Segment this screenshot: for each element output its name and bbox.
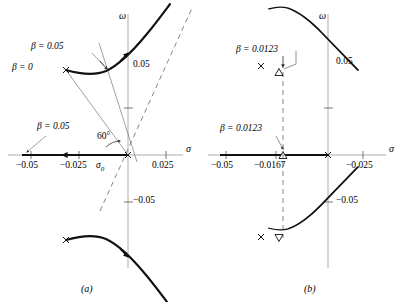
leader-beta-upper-b: [284, 51, 296, 69]
sigma-axis-label-b: σ: [389, 143, 394, 154]
omega-axis-label-b: ω: [319, 10, 326, 21]
omega-lower-value-a: −0.05: [133, 196, 155, 206]
xtick-label-b-2: −0.0167: [254, 161, 285, 171]
xtick-label-b-3: −0.025: [346, 161, 373, 171]
omega-upper-value-b: 0.05: [336, 57, 353, 67]
panel-a: β = 0.05 β = 0 β = 0.05 0.05 −0.05 60° −…: [0, 0, 200, 302]
upper-branch-a: [66, 4, 170, 74]
caption-b: (b): [304, 283, 316, 294]
xtick-label-a-2: −0.025: [60, 161, 87, 171]
panel-a-plot: [0, 0, 200, 302]
omega-upper-value-a: 0.05: [133, 60, 150, 70]
omega-lower-value-b: −0.05: [336, 196, 358, 206]
angle-label-a: 60°: [97, 132, 110, 142]
caption-a: (a): [81, 283, 93, 294]
angle-ray-right-a: [99, 43, 137, 162]
beta-upper-label-b: β = 0.0123: [236, 45, 278, 55]
sigma0-label-a: σ0: [96, 161, 104, 173]
beta-real-label-a: β = 0.05: [37, 122, 70, 132]
panel-b: β = 0.0123 β = 0.0123 0.05 −0.05 −0.05 −…: [200, 0, 400, 302]
xtick-label-b-1: −0.05: [211, 161, 233, 171]
angle-arc-a: [106, 141, 120, 147]
leader-beta-real-a: [27, 136, 46, 152]
xtick-label-a-3: 0.025: [152, 161, 173, 171]
breakaway-triangle-lower-b: [275, 235, 283, 242]
angle-ray-left-a: [66, 70, 128, 155]
beta-upper-label-a: β = 0.05: [31, 42, 64, 52]
beta-zero-label-a: β = 0: [12, 63, 33, 73]
upper-branch-start-x-b: [258, 63, 264, 69]
omega-axis-label-a: ω: [119, 10, 126, 21]
xtick-label-a-1: −0.05: [16, 161, 38, 171]
sigma-axis-label-a: σ: [186, 143, 191, 154]
asymptote-a: [100, 6, 193, 211]
figure-root-locus: β = 0.05 β = 0 β = 0.05 0.05 −0.05 60° −…: [0, 0, 400, 302]
breakaway-triangle-upper-b: [275, 69, 283, 76]
panel-b-plot: [200, 0, 400, 302]
leader-beta-real-b: [276, 136, 283, 149]
lower-branch-start-x-b: [258, 234, 264, 240]
beta-real-label-b: β = 0.0123: [220, 124, 262, 134]
